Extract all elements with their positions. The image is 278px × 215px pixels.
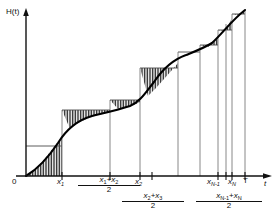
y-axis-label: H(t) [6, 8, 19, 16]
midpoint-3-numerator: xN-1+xN [196, 192, 262, 200]
hatched-regions [26, 10, 245, 176]
m2-a: x [144, 191, 148, 200]
vertical-drop-lines [62, 10, 245, 176]
x-tick-label-x1: x1 [57, 178, 64, 186]
y-axis-arrow [23, 8, 29, 16]
midpoint-3-denominator: 2 [196, 202, 262, 210]
x-axis-arrow [263, 173, 272, 179]
m3-b-sub: N [238, 195, 242, 201]
x1-subscript: 1 [61, 181, 64, 187]
m1-a-sub: 1 [104, 179, 107, 185]
xNm1-subscript: N-1 [211, 181, 220, 187]
m2-a-sub: 2 [148, 195, 151, 201]
staircase-steps [26, 14, 245, 146]
x-tick-label-T: T [243, 177, 248, 185]
x-axis-label: t [264, 180, 266, 188]
m3-a-sub: N-1 [220, 195, 229, 201]
xN-subscript: N [232, 181, 236, 187]
x-tick-label-xNm1: xN-1 [207, 178, 220, 186]
midpoint-label-2: x2+x3 2 [122, 192, 184, 211]
midpoint-2-denominator: 2 [122, 202, 184, 210]
m2-b-sub: 3 [159, 195, 162, 201]
midpoint-label-3: xN-1+xN 2 [196, 192, 262, 211]
origin-label: 0 [12, 178, 16, 186]
x-tick-label-xN: xN [228, 178, 236, 186]
figure-container: H(t) 0 x1 x2 xN-1 xN T t x1+x2 2 x2+x3 2… [0, 0, 278, 215]
m1-a: x [100, 175, 104, 184]
midpoint-2-numerator: x2+x3 [122, 192, 184, 200]
m1-b-sub: 2 [115, 179, 118, 185]
midpoint-1-numerator: x1+x2 [78, 176, 140, 184]
